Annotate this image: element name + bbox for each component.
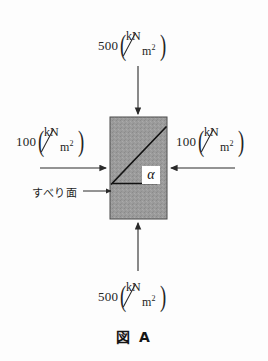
paren-right-icon: ) (160, 285, 166, 307)
figure-container: 500 ( kN m2 ) 100 ( kN m2 ) 100 ( (0, 0, 268, 361)
load-unit-top: ( kN m2 ) (118, 30, 168, 60)
load-magnitude-left: 100 (16, 135, 36, 148)
load-magnitude-bottom: 500 (98, 290, 118, 303)
unit-denominator: m2 (220, 140, 233, 153)
load-magnitude-top: 500 (98, 39, 118, 52)
load-unit-bottom: ( kN m2 ) (118, 281, 168, 311)
figure-caption: 図 A (0, 326, 268, 346)
load-label-bottom: 500 ( kN m2 ) (98, 281, 168, 311)
slip-plane-label: すべり面 (32, 184, 77, 200)
load-label-left: 100 ( kN m2 ) (16, 126, 86, 156)
unit-denominator: m2 (142, 44, 155, 57)
load-label-top: 500 ( kN m2 ) (98, 30, 168, 60)
paren-right-icon: ) (160, 34, 166, 56)
paren-right-icon: ) (78, 130, 84, 152)
paren-right-icon: ) (238, 130, 244, 152)
load-magnitude-right: 100 (176, 135, 196, 148)
unit-fraction: kN m2 (126, 30, 160, 60)
unit-denominator: m2 (60, 140, 73, 153)
alpha-symbol: α (147, 167, 154, 183)
unit-fraction: kN m2 (204, 126, 238, 156)
unit-denominator: m2 (142, 295, 155, 308)
load-unit-right: ( kN m2 ) (196, 126, 246, 156)
angle-symbol-box: α (142, 166, 160, 184)
load-unit-left: ( kN m2 ) (36, 126, 86, 156)
unit-fraction: kN m2 (44, 126, 78, 156)
unit-fraction: kN m2 (126, 281, 160, 311)
load-label-right: 100 ( kN m2 ) (176, 126, 246, 156)
